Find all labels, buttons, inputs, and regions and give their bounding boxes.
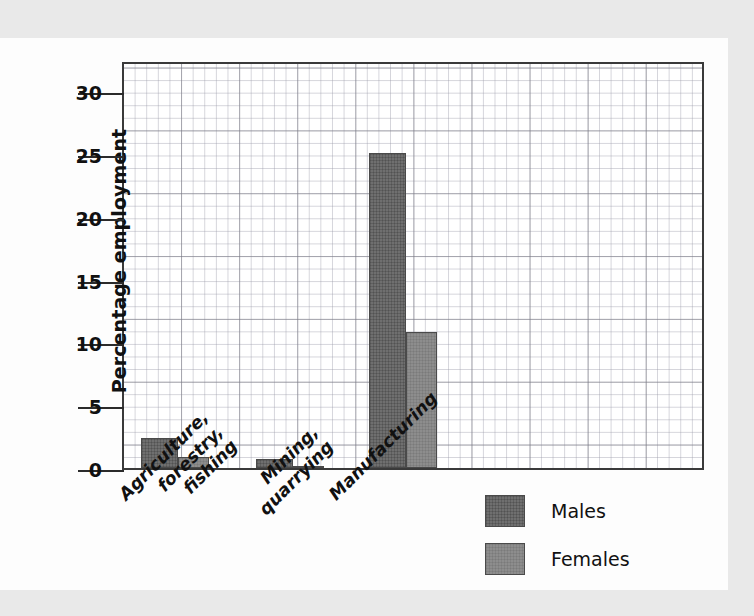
y-tick-10: 10	[78, 344, 124, 346]
y-tick-5: 5	[78, 407, 124, 409]
bar-chart-figure: Percentage employment 0 5 10 15 20 25 30…	[0, 0, 754, 616]
y-tick-15: 15	[78, 282, 124, 284]
legend-item-males: Males	[485, 487, 630, 535]
figure-page: Percentage employment 0 5 10 15 20 25 30…	[0, 0, 754, 616]
legend-swatch-males-icon	[485, 495, 525, 527]
legend-label-females: Females	[551, 548, 630, 570]
y-tick-label-30: 30	[76, 82, 102, 104]
y-tick-label-20: 20	[76, 208, 102, 230]
y-tick-20: 20	[78, 219, 124, 221]
y-tick-label-0: 0	[89, 459, 102, 481]
legend-label-males: Males	[551, 500, 606, 522]
legend-item-females: Females	[485, 535, 630, 583]
legend-swatch-females-icon	[485, 543, 525, 575]
chart-legend: Males Females	[485, 487, 630, 583]
y-tick-label-15: 15	[76, 271, 102, 293]
y-tick-30: 30	[78, 93, 124, 95]
y-tick-25: 25	[78, 156, 124, 158]
y-tick-label-10: 10	[76, 333, 102, 355]
y-tick-label-5: 5	[89, 396, 102, 418]
y-tick-0: 0	[78, 470, 124, 472]
y-tick-label-25: 25	[76, 145, 102, 167]
